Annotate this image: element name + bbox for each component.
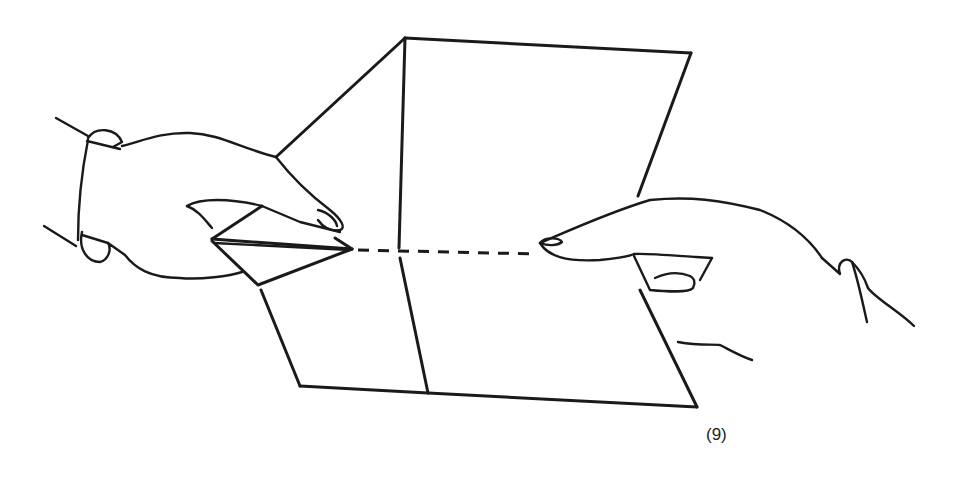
paper-sheet [261,38,697,407]
folding-illustration [0,0,964,478]
fold-dashed-line [358,250,537,254]
right-hand [540,198,914,360]
step-number-label: (9) [706,425,727,445]
left-hand [44,118,343,279]
